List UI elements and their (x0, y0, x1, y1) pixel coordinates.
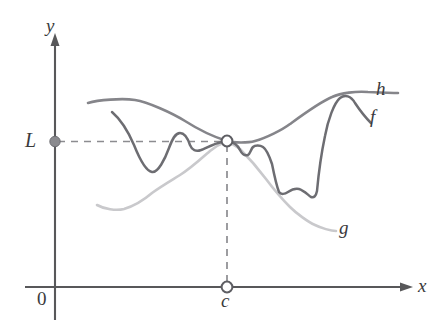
squeeze-theorem-figure: y x L 0 c h f g (0, 0, 441, 333)
origin-label: 0 (37, 289, 47, 308)
squeeze-point-hole (222, 136, 233, 147)
x-axis-arrowhead (400, 283, 413, 292)
curve-h-label: h (376, 79, 386, 98)
curve-g-label: g (339, 218, 349, 237)
curve-g-lower-bound (97, 141, 336, 231)
point-c-label: c (221, 291, 229, 310)
curve-f-squeezed (112, 96, 371, 197)
y-axis-label: y (46, 16, 54, 35)
curve-f-label: f (370, 107, 375, 126)
graph-canvas (0, 0, 441, 333)
limit-value-dot (50, 136, 60, 146)
x-axis-label: x (418, 276, 426, 295)
limit-value-label: L (25, 130, 36, 150)
